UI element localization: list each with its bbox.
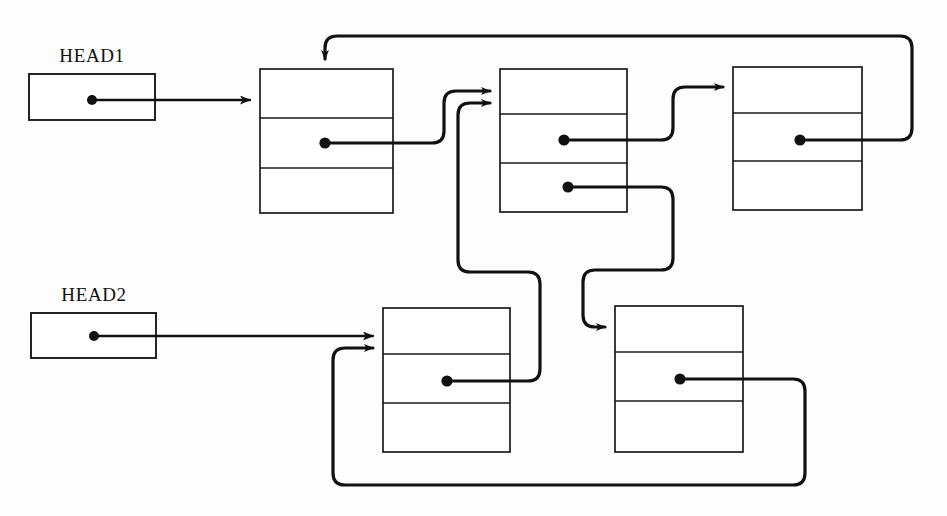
node1-group	[260, 69, 393, 213]
linked-list-diagram: HEAD1 HEAD2	[0, 0, 947, 516]
head1-group: HEAD1	[29, 45, 250, 120]
head1-label: HEAD1	[59, 45, 124, 66]
head2-group: HEAD2	[31, 284, 373, 358]
head2-label: HEAD2	[61, 284, 126, 305]
diagram-canvas: HEAD1 HEAD2	[0, 0, 947, 516]
